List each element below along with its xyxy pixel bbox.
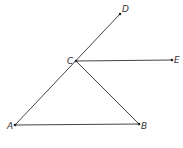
label-c: C	[67, 56, 74, 66]
label-d: D	[122, 4, 129, 14]
segment-cb	[76, 61, 139, 124]
label-e: E	[174, 55, 180, 65]
point-b	[138, 123, 141, 126]
label-a: A	[6, 121, 13, 131]
label-b: B	[141, 121, 147, 131]
segment-ce	[76, 60, 172, 61]
point-e	[171, 59, 174, 62]
point-c	[75, 60, 78, 63]
geometry-diagram: A B C D E	[0, 0, 183, 148]
segment-ab	[15, 124, 139, 125]
point-a	[14, 124, 17, 127]
point-d	[119, 13, 122, 16]
segment-ad	[15, 14, 120, 125]
